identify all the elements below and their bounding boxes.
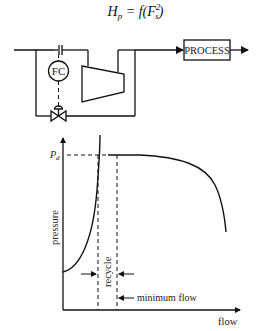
flow-controller-label: FC (52, 65, 65, 77)
pd-label: Pd (49, 149, 60, 162)
recycle-label: recycle (102, 256, 113, 287)
system-curve (63, 135, 100, 272)
pressure-flow-graph (63, 135, 240, 310)
x-axis-label: flow (218, 316, 238, 327)
valve-actuator (55, 106, 63, 109)
process-label: PROCESS (184, 45, 230, 56)
recycle-valve-right (59, 111, 67, 121)
compressor-curve (108, 155, 226, 232)
minimum-flow-label: minimum flow (137, 292, 198, 303)
y-axis-label: pressure (49, 210, 60, 245)
diagram-canvas: FC PROCESS Pd pressure flow recycle mini… (0, 0, 271, 331)
